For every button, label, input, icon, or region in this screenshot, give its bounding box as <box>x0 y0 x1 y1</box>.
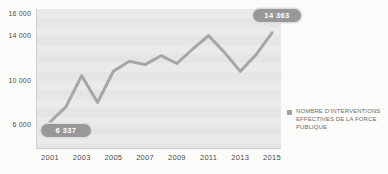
x-axis-tick-label: 2013 <box>224 153 256 162</box>
legend-marker-icon <box>287 110 292 115</box>
x-axis-tick-label: 2005 <box>97 153 129 162</box>
legend-label: NOMBRE D’INTERVENTIONS EFFECTIVES DE LA … <box>296 107 386 131</box>
x-axis-tick-label: 2009 <box>161 153 193 162</box>
data-label-first-point: 6 337 <box>41 124 91 137</box>
data-label-last-point: 14 363 <box>253 9 301 22</box>
y-axis-tick-label: 10 000 <box>0 77 31 84</box>
y-axis-tick-label: 16 000 <box>0 10 31 17</box>
x-axis-tick-label: 2001 <box>34 153 66 162</box>
x-axis-tick-label: 2003 <box>66 153 98 162</box>
legend: NOMBRE D’INTERVENTIONS EFFECTIVES DE LA … <box>287 107 386 131</box>
data-line <box>50 33 272 122</box>
legend-label-line: NOMBRE D’INTERVENTIONS <box>296 107 386 115</box>
x-axis-tick-label: 2011 <box>193 153 225 162</box>
y-axis-tick-label: 14 000 <box>0 32 31 39</box>
x-axis-tick-label: 2015 <box>256 153 288 162</box>
x-axis-tick-label: 2007 <box>129 153 161 162</box>
line-chart: 16 000 14 000 10 000 6 000 2001 2003 200… <box>0 0 388 174</box>
y-axis-tick-label: 6 000 <box>0 121 31 128</box>
legend-label-line: PUBLIQUE <box>296 123 386 131</box>
legend-label-line: EFFECTIVES DE LA FORCE <box>296 115 386 123</box>
line-chart-svg <box>0 0 388 174</box>
